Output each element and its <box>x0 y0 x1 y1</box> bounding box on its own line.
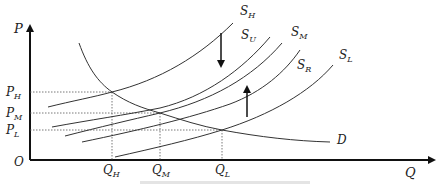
supply-label-sl: SL <box>339 48 353 64</box>
svg-text:PM: PM <box>5 106 23 122</box>
price-label-ph: PH <box>5 85 22 101</box>
supply-curve-sm <box>65 43 282 136</box>
svg-text:QL: QL <box>215 163 230 179</box>
origin-label: O <box>14 155 24 169</box>
svg-text:QM: QM <box>152 163 171 179</box>
price-label-pm: PM <box>5 106 23 122</box>
x-axis-label: Q <box>405 165 416 180</box>
quantity-label-qh: QH <box>103 163 121 179</box>
supply-demand-diagram: P Q O PH PM PL QH QM QL D SH SU SM SR SL <box>0 0 442 186</box>
supply-label-sh: SH <box>240 4 256 20</box>
supply-curve-sh <box>48 23 233 107</box>
quantity-label-qm: QM <box>152 163 171 179</box>
supply-label-su: SU <box>241 28 256 44</box>
demand-curve <box>79 43 330 142</box>
quantity-label-ql: QL <box>215 163 230 179</box>
supply-label-sr: SR <box>297 58 311 74</box>
price-label-pl: PL <box>5 123 19 139</box>
svg-text:PL: PL <box>5 123 19 139</box>
svg-text:QH: QH <box>103 163 121 179</box>
demand-label: D <box>336 133 347 147</box>
y-axis-label: P <box>13 21 23 36</box>
supply-curve-sr <box>82 50 300 142</box>
caption-faint <box>140 181 310 184</box>
svg-text:PH: PH <box>5 85 22 101</box>
supply-label-sm: SM <box>291 25 308 41</box>
